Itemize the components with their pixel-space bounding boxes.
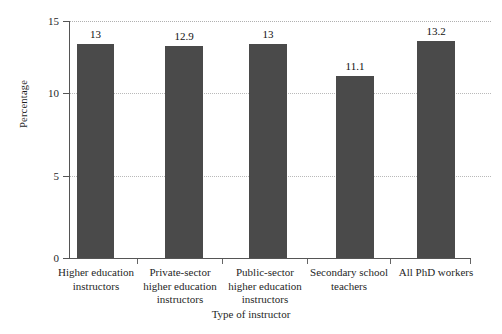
bar-value-1: 13 [65,29,126,40]
bar-value-2: 12.9 [154,31,214,42]
y-tick-mark-15 [63,21,69,22]
bar-5 [417,41,455,258]
y-axis-line [69,21,70,259]
x-category-label-3-line-3: instructors [215,293,315,307]
bar-1 [77,44,114,258]
x-axis-title: Type of instructor [0,308,502,320]
x-category-label-5: All PhD workers [386,266,486,280]
x-tick-mark-2 [222,259,223,264]
y-tick-mark-10 [63,93,69,94]
x-tick-mark-1 [137,259,138,264]
x-category-label-4: Secondary school teachers [299,266,399,293]
bar-value-5: 13.2 [406,26,466,37]
x-category-label-5-line-1: All PhD workers [386,266,486,280]
y-tick-label-10: 10 [48,88,59,99]
y-tick-label-0: 0 [54,253,60,264]
bar-chart: Percentage 15 10 5 0 13 12.9 13 11.1 13.… [0,0,502,334]
bar-value-4: 11.1 [325,61,385,72]
y-tick-mark-5 [63,176,69,177]
x-tick-mark-5 [470,259,471,264]
bar-value-3: 13 [238,29,298,40]
y-tick-mark-0 [63,258,69,259]
x-tick-mark-3 [307,259,308,264]
x-tick-mark-4 [390,259,391,264]
y-tick-label-5: 5 [54,171,60,182]
bar-3 [249,44,287,258]
x-axis-line [69,258,471,259]
gridline-15 [70,21,491,22]
bar-4 [336,76,374,258]
x-category-label-4-line-2: teachers [299,280,399,294]
y-tick-label-15: 15 [48,16,59,27]
bar-2 [165,46,203,258]
y-axis-title: Percentage [18,112,29,128]
x-category-label-4-line-1: Secondary school [299,266,399,280]
